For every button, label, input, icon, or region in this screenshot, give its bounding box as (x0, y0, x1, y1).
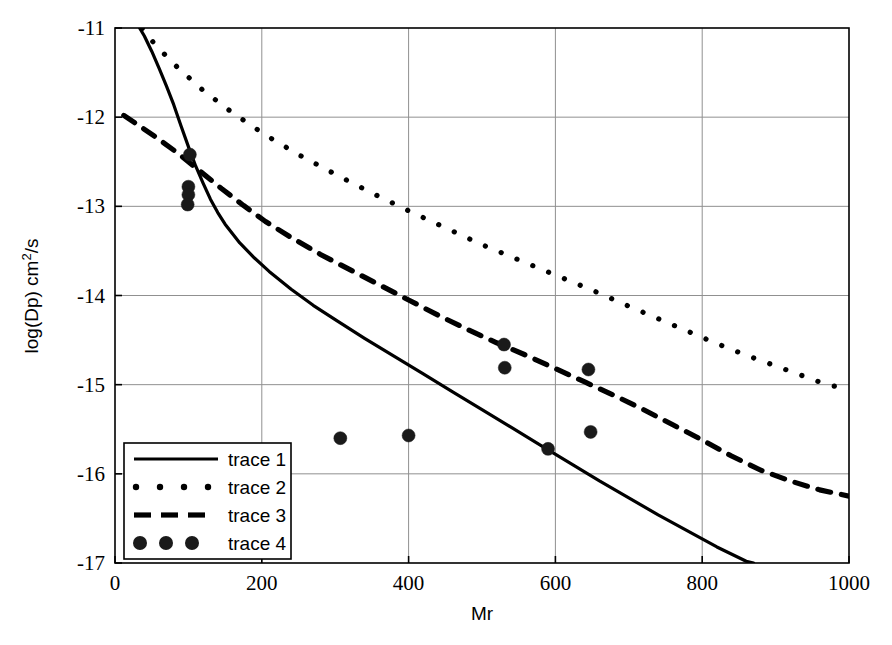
legend-swatch-marker (185, 536, 199, 550)
x-tick-label: 400 (393, 571, 425, 595)
legend-swatch-marker (159, 536, 173, 550)
data-point-marker (498, 361, 511, 374)
legend-swatch-dot (133, 484, 139, 490)
legend-item-label: trace 4 (228, 533, 287, 554)
data-point-marker (183, 148, 196, 161)
data-point-marker (498, 338, 511, 351)
y-axis-title-sup: 2 (19, 253, 34, 260)
y-tick-label: -11 (78, 16, 105, 40)
x-tick-label: 800 (686, 571, 718, 595)
y-tick-label: -16 (77, 462, 105, 486)
series-trace-4 (181, 148, 597, 455)
y-tick-label: -15 (77, 373, 105, 397)
y-axis-title: log(Dp) cm2/s (19, 239, 42, 354)
series-line (124, 115, 849, 496)
y-tick-label: -17 (77, 551, 105, 575)
y-axis-title-tail: /s (21, 239, 42, 254)
chart-canvas: 02004006008001000-17-16-15-14-13-12-11 M… (0, 0, 892, 645)
data-point-marker (582, 363, 595, 376)
legend-swatch-marker (133, 536, 147, 550)
x-axis-title: Mr (471, 603, 494, 624)
legend-item-label: trace 2 (228, 477, 286, 498)
data-point-marker (181, 198, 194, 211)
chart-legend[interactable]: trace 1trace 2trace 3trace 4 (124, 443, 291, 559)
legend-item-label: trace 3 (228, 505, 286, 526)
y-axis-title-base: log(Dp) cm (21, 261, 42, 354)
series-trace-3 (124, 115, 849, 496)
x-tick-label: 200 (246, 571, 278, 595)
y-tick-label: -14 (77, 284, 105, 308)
data-point-marker (402, 429, 415, 442)
data-point-marker (542, 442, 555, 455)
x-tick-label: 0 (110, 571, 121, 595)
legend-item-label: trace 1 (228, 449, 286, 470)
x-tick-label: 600 (540, 571, 572, 595)
y-tick-label: -13 (77, 194, 105, 218)
legend-swatch-dot (205, 484, 211, 490)
x-tick-label: 1000 (828, 571, 870, 595)
svg-text:log(Dp) cm2/s: log(Dp) cm2/s (19, 239, 42, 354)
legend-swatch-dot (157, 484, 163, 490)
y-tick-label: -12 (77, 105, 105, 129)
data-point-marker (584, 425, 597, 438)
chart-figure: 02004006008001000-17-16-15-14-13-12-11 M… (0, 0, 892, 645)
data-point-marker (334, 432, 347, 445)
legend-swatch-dot (181, 484, 187, 490)
